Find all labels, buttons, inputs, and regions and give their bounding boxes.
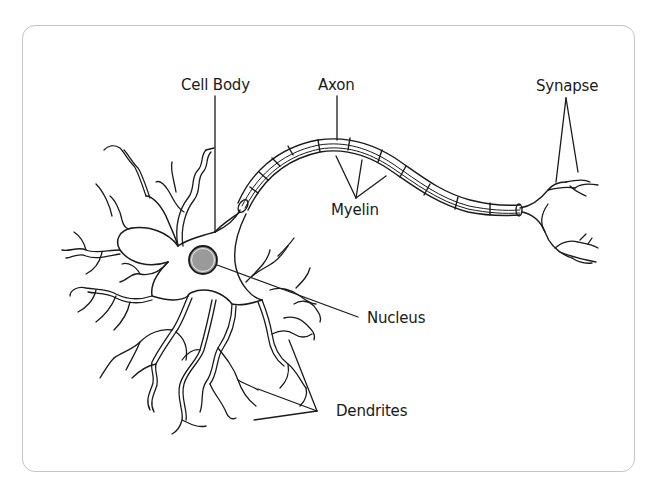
- label-cell-body: Cell Body: [181, 78, 250, 93]
- label-nucleus: Nucleus: [367, 311, 425, 326]
- dendrites: [62, 146, 321, 434]
- nucleus: [189, 246, 217, 274]
- label-axon: Axon: [318, 78, 355, 93]
- leader-lines: [209, 96, 578, 420]
- axon: [215, 138, 522, 300]
- neuron-diagram: [0, 0, 656, 497]
- label-synapse: Synapse: [536, 79, 598, 94]
- label-myelin: Myelin: [331, 203, 379, 218]
- axon-terminal: [520, 180, 598, 263]
- soma: [118, 196, 262, 305]
- label-dendrites: Dendrites: [336, 404, 407, 419]
